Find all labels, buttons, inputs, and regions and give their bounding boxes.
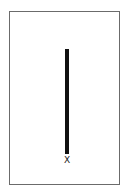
vertical-bar xyxy=(65,49,69,154)
bar-label: X xyxy=(62,155,72,165)
